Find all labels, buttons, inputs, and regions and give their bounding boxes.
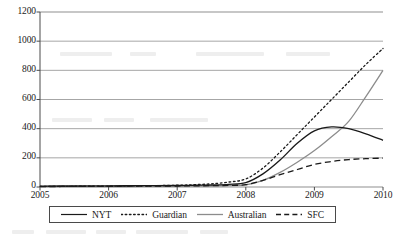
x-tick-2006: 2006	[87, 190, 131, 201]
y-axis: 1200 1000 800 600 400 200 0	[0, 12, 36, 187]
data-series-group	[40, 48, 383, 186]
legend-item-sfc: SFC	[276, 210, 324, 220]
legend-swatch-guardian-dotted-line-icon	[121, 211, 147, 218]
axis-ticks	[37, 12, 384, 191]
line-chart-figure: 1200 1000 800 600 400 200 0 2005 2006 20…	[0, 0, 402, 241]
y-tick-1000: 1000	[2, 36, 36, 46]
legend-label-australian: Australian	[228, 210, 267, 220]
x-tick-2005: 2005	[18, 190, 62, 201]
legend-label-sfc: SFC	[307, 210, 324, 220]
y-tick-1200: 1200	[2, 7, 36, 17]
x-tick-2009: 2009	[292, 190, 336, 201]
series-line-sfc	[40, 158, 383, 186]
y-tick-600: 600	[2, 94, 36, 104]
series-line-guardian	[40, 48, 383, 186]
legend-swatch-nyt-solid-line-icon	[61, 211, 87, 218]
legend-item-australian: Australian	[197, 210, 267, 220]
legend-swatch-sfc-dashed-line-icon	[276, 211, 302, 218]
legend-item-guardian: Guardian	[121, 210, 187, 220]
legend-item-nyt: NYT	[61, 210, 111, 220]
chart-canvas	[40, 12, 383, 187]
x-tick-2007: 2007	[155, 190, 199, 201]
scan-artifact-bottom	[0, 230, 402, 239]
x-tick-2008: 2008	[224, 190, 268, 201]
gridlines	[40, 12, 383, 187]
y-tick-800: 800	[2, 65, 36, 75]
chart-legend: NYT Guardian Australian SFC	[49, 206, 336, 223]
y-tick-200: 200	[2, 152, 36, 162]
x-axis: 2005 2006 2007 2008 2009 2010	[40, 190, 383, 204]
series-line-nyt	[40, 127, 383, 186]
legend-swatch-australian-solid-gray-line-icon	[197, 211, 223, 218]
y-tick-400: 400	[2, 123, 36, 133]
legend-label-nyt: NYT	[92, 210, 111, 220]
x-tick-2010: 2010	[361, 190, 402, 201]
plot-area	[40, 12, 383, 187]
legend-label-guardian: Guardian	[152, 210, 187, 220]
